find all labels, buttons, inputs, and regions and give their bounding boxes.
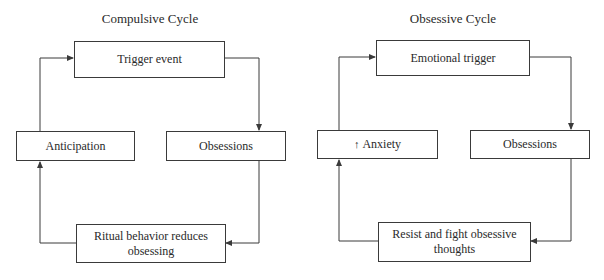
node-label: Emotional trigger bbox=[411, 51, 496, 66]
node-ritual-behavior: Ritual behavior reduces obsessing bbox=[76, 224, 226, 263]
obsessive-cycle-title: Obsessive Cycle bbox=[353, 11, 553, 27]
arrow-obsessions-to-resist bbox=[531, 159, 571, 241]
arrow-obsessions-to-ritual bbox=[226, 161, 259, 243]
node-label: Resist and fight obsessive thoughts bbox=[389, 227, 520, 257]
arrow-resist-to-anxiety bbox=[339, 160, 378, 241]
arrow-trigger-to-obsessions bbox=[225, 58, 259, 130]
node-anticipation: Anticipation bbox=[16, 131, 135, 161]
node-label: Obsessions bbox=[199, 139, 253, 154]
up-arrow-icon: ↑ bbox=[354, 137, 360, 152]
arrow-ritual-to-anticipation bbox=[40, 162, 76, 243]
node-label: Trigger event bbox=[117, 52, 182, 67]
node-anxiety: ↑ Anxiety bbox=[317, 130, 438, 159]
node-resist-fight: Resist and fight obsessive thoughts bbox=[378, 222, 531, 262]
node-label: Anxiety bbox=[362, 137, 401, 152]
node-label: Anticipation bbox=[46, 139, 106, 154]
arrow-emotional-to-obsessions bbox=[530, 57, 571, 129]
node-trigger-event: Trigger event bbox=[74, 41, 225, 78]
node-obsessions-compulsive: Obsessions bbox=[166, 131, 286, 161]
compulsive-cycle-title: Compulsive Cycle bbox=[50, 11, 250, 27]
arrow-anticipation-to-trigger bbox=[40, 58, 73, 131]
arrow-anxiety-to-emotional bbox=[339, 57, 375, 130]
node-obsessions-obsessive: Obsessions bbox=[470, 130, 590, 159]
node-label: Obsessions bbox=[503, 137, 557, 152]
node-label: Ritual behavior reduces obsessing bbox=[91, 229, 211, 259]
node-emotional-trigger: Emotional trigger bbox=[376, 40, 530, 76]
